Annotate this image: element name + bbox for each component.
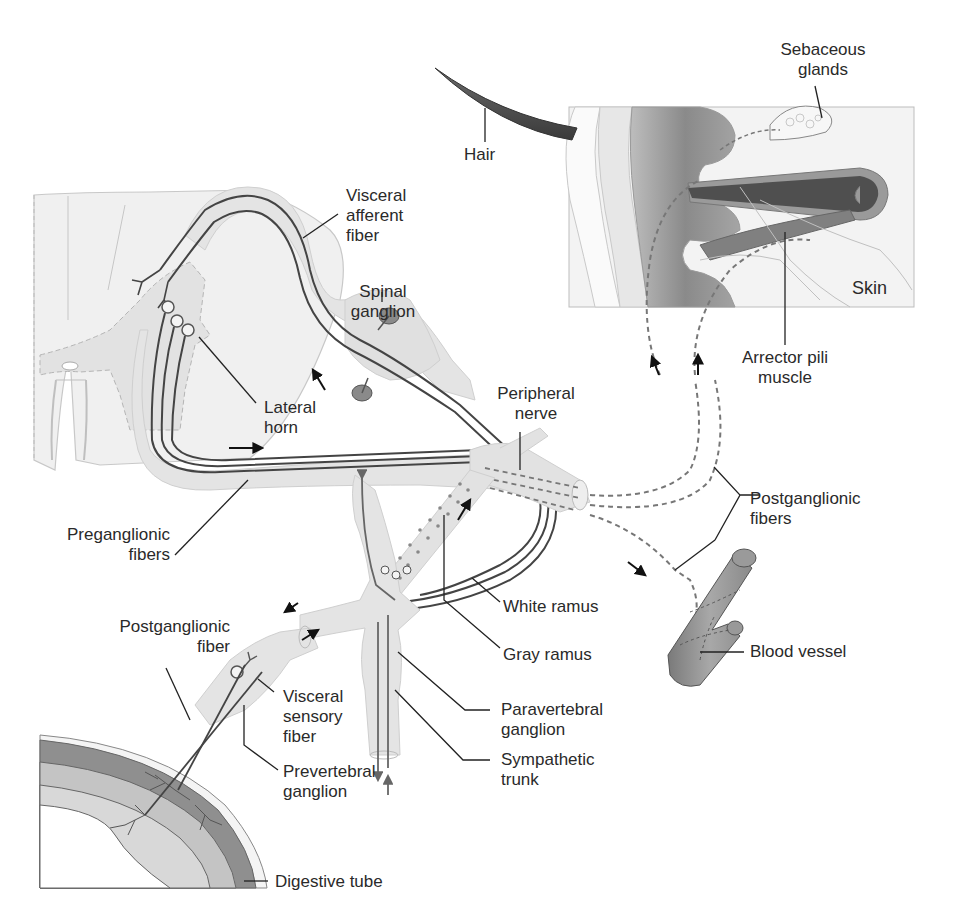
label-sebaceous-glands: Sebaceous glands [778, 40, 868, 80]
skin-panel [566, 106, 914, 375]
label-lateral-horn: Lateral horn [264, 398, 316, 438]
sympathetic-trunk [300, 475, 420, 795]
label-blood-vessel: Blood vessel [750, 642, 846, 662]
label-visceral-sensory-fiber: Visceral sensory fiber [283, 687, 343, 747]
label-visceral-afferent-fiber: Visceral afferent fiber [346, 186, 406, 246]
label-postganglionic-fiber: Postganglionic fiber [60, 617, 230, 657]
label-preganglionic-fibers: Preganglionic fibers [30, 525, 170, 565]
hair-shaft [435, 68, 577, 140]
postganglionic-fiber-paths [590, 380, 720, 620]
label-digestive-tube: Digestive tube [275, 872, 383, 892]
sympathetic-pathways-diagram: Sebaceous glands Hair Visceral afferent … [0, 0, 956, 918]
label-postganglionic-fibers: Postganglionic fibers [750, 489, 861, 529]
label-sympathetic-trunk: Sympathetic trunk [501, 750, 595, 790]
label-peripheral-nerve: Peripheral nerve [492, 384, 580, 424]
label-spinal-ganglion: Spinal ganglion [340, 282, 426, 322]
label-arrector-pili-muscle: Arrector pili muscle [735, 348, 835, 388]
blood-vessel [668, 549, 756, 686]
label-paravertebral-ganglion: Paravertebral ganglion [501, 700, 603, 740]
peripheral-nerve [470, 428, 590, 512]
label-prevertebral-ganglion: Prevertebral ganglion [283, 762, 376, 802]
label-gray-ramus: Gray ramus [503, 645, 592, 665]
label-hair: Hair [464, 145, 495, 165]
label-skin: Skin [852, 278, 887, 298]
label-white-ramus: White ramus [503, 597, 598, 617]
